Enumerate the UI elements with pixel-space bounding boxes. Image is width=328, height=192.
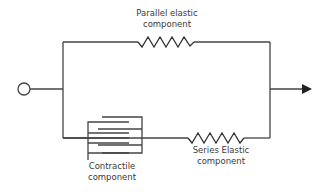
muscle-model-diagram: Parallel elastic component Contractile c… [0,0,328,192]
series-elastic-label-line2: component [180,156,262,167]
contractile-label-line1: Contractile [72,161,152,172]
contractile-label: Contractile component [72,161,152,183]
output-arrowhead-icon [302,84,312,94]
series-elastic-label: Series Elastic component [180,145,262,167]
series-elastic-label-line1: Series Elastic [180,145,262,156]
contractile-component-icon [63,117,142,160]
contractile-label-line2: component [72,172,152,183]
series-elastic-spring-icon [142,133,270,143]
parallel-elastic-spring-icon [63,37,270,47]
parallel-elastic-label: Parallel elastic component [118,8,216,30]
parallel-elastic-label-line2: component [118,19,216,30]
input-terminal-icon [18,83,30,95]
parallel-elastic-label-line1: Parallel elastic [118,8,216,19]
